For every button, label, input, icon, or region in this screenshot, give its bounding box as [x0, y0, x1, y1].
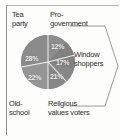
label-pro-government: Pro- government — [50, 10, 88, 28]
label-religious-values-voters: Religious values voters — [48, 99, 90, 117]
slice-value-religious-voters: 21% — [50, 73, 63, 80]
pie-graphic: 28% 12% 17% 21% 22% — [21, 35, 75, 89]
label-religious-values-voters-line1: Religious — [48, 99, 90, 108]
label-old-school: Old- school — [9, 99, 29, 117]
pie-chart-figure: 28% 12% 17% 21% 22% Tea party Pro- gover… — [0, 0, 120, 140]
label-window-shoppers-line1: Window — [74, 50, 103, 59]
label-pro-government-line1: Pro- — [50, 10, 88, 19]
slice-value-window-shoppers: 17% — [56, 59, 69, 66]
label-tea-party-line1: Tea — [12, 10, 28, 19]
label-tea-party-line2: party — [12, 19, 28, 28]
slice-value-old-school: 22% — [28, 74, 41, 81]
label-window-shoppers-line2: shoppers — [74, 59, 103, 68]
pie-separator-1 — [48, 62, 49, 89]
slice-value-tea-party: 28% — [25, 55, 38, 62]
label-pro-government-line2: government — [50, 19, 88, 28]
label-old-school-line1: Old- — [9, 99, 29, 108]
slice-value-pro-government: 12% — [51, 43, 64, 50]
pie-separator-4 — [48, 35, 49, 62]
label-religious-values-voters-line2: values voters — [48, 108, 90, 117]
label-tea-party: Tea party — [12, 10, 28, 28]
label-window-shoppers: Window shoppers — [74, 50, 103, 68]
label-old-school-line2: school — [9, 108, 29, 117]
